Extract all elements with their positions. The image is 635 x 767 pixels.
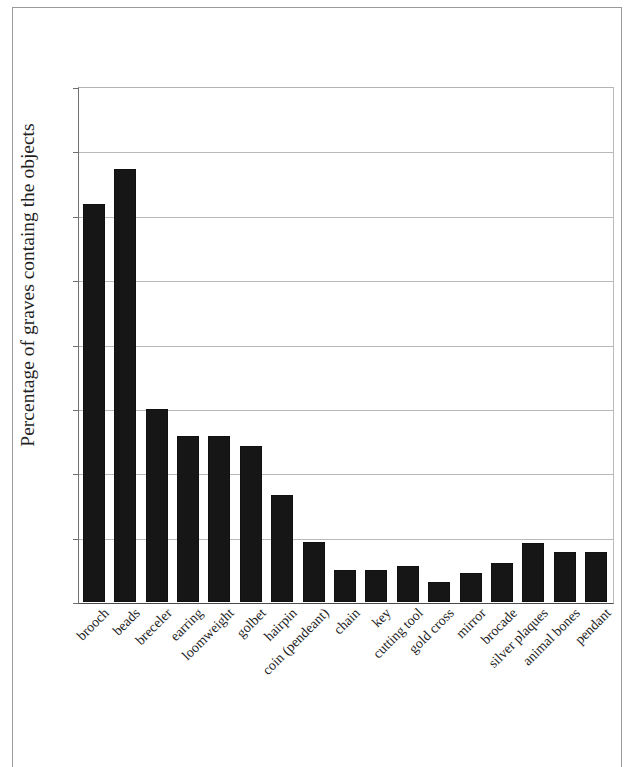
bar	[460, 573, 482, 602]
bar	[303, 542, 325, 602]
bar	[146, 409, 168, 602]
bar	[365, 570, 387, 602]
y-axis-title: Percentage of graves containg the object…	[17, 5, 39, 565]
bars-layer	[78, 87, 612, 602]
x-axis-tick-label: chain	[332, 606, 364, 638]
x-axis-tick-label: brooch	[74, 606, 112, 644]
x-axis-tick-labels: broochbeadsbrecelerearringloomweightgolb…	[78, 606, 612, 746]
bar	[334, 570, 356, 602]
bar	[240, 446, 262, 602]
bar	[271, 495, 293, 602]
bar	[522, 543, 544, 602]
bar	[554, 552, 576, 602]
bar	[397, 566, 419, 602]
bar	[491, 563, 513, 602]
y-axis-tick	[73, 603, 79, 604]
bar	[114, 169, 136, 602]
bar	[177, 436, 199, 602]
bar	[428, 582, 450, 602]
bar	[208, 436, 230, 602]
bar	[83, 204, 105, 602]
x-axis-tick-label: key	[370, 606, 395, 631]
bar	[585, 552, 607, 602]
